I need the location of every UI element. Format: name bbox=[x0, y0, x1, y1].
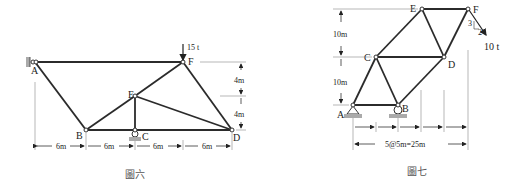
figure-6-truss: 15 t A B C D E F 6m 6m 6m 6m 4m 4m bbox=[26, 43, 246, 180]
joint-label-d: D bbox=[448, 59, 455, 70]
joint-label-d: D bbox=[233, 132, 240, 143]
joint-label-a: A bbox=[337, 109, 345, 120]
joint-label-e: E bbox=[410, 3, 416, 14]
joint-label-c: C bbox=[364, 52, 371, 63]
joint-label-b: B bbox=[76, 130, 83, 141]
dim-cf: 6m bbox=[153, 142, 164, 151]
dim-fe-vertical: 4m bbox=[234, 76, 245, 85]
dim-fd: 6m bbox=[202, 142, 213, 151]
pin-support-a-icon bbox=[26, 57, 30, 67]
joint-label-a: A bbox=[31, 65, 39, 76]
dim-upper-vertical: 10m bbox=[333, 30, 348, 39]
dim-total-span: 5@5m=25m bbox=[385, 140, 426, 149]
joint-label-c: C bbox=[142, 131, 149, 142]
joint-label-f: F bbox=[473, 4, 479, 15]
figure-7-truss: 3 2 10 t A B C D E F 10m 10m 5@5m bbox=[333, 3, 500, 177]
dim-bc: 6m bbox=[104, 142, 115, 151]
diagram-canvas: 15 t A B C D E F 6m 6m 6m 6m 4m 4m bbox=[0, 0, 528, 195]
dim-ed-vertical: 4m bbox=[234, 110, 245, 119]
joint-label-f: F bbox=[188, 56, 194, 67]
figure-6-caption: 圖六 bbox=[125, 169, 145, 180]
dim-lower-vertical: 10m bbox=[333, 78, 348, 87]
slope-rise-label: 3 bbox=[468, 19, 472, 28]
joint-label-e: E bbox=[128, 89, 134, 100]
load-label: 10 t bbox=[484, 41, 500, 52]
load-label: 15 t bbox=[187, 43, 200, 52]
joint-label-b: B bbox=[402, 103, 409, 114]
dim-ab: 6m bbox=[56, 142, 67, 151]
figure-7-caption: 圖七 bbox=[407, 166, 427, 177]
pin-support-a-icon bbox=[344, 106, 362, 118]
slope-run-label: 2 bbox=[478, 28, 482, 37]
